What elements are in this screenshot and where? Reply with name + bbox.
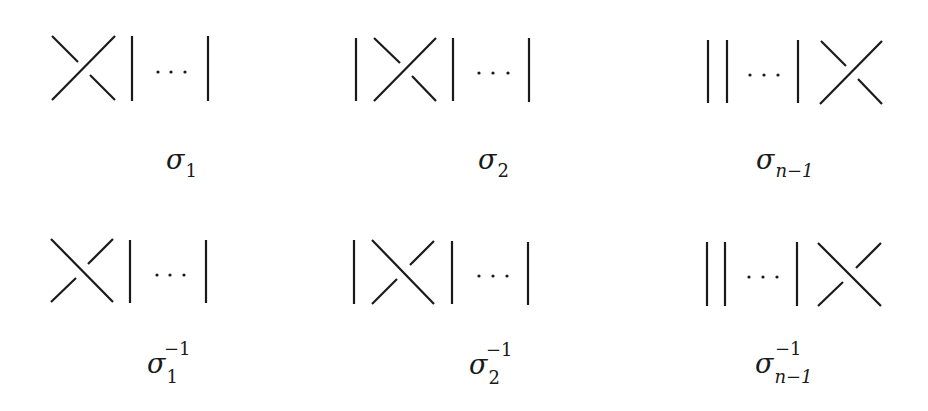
braid-sigma-n-1-inverse: [707, 242, 881, 306]
label-symbol: σ: [756, 144, 774, 175]
label-sigma-2-inverse: σ2−1: [469, 351, 500, 378]
braid-sigma-2: [356, 38, 529, 102]
label-symbol: σ: [166, 144, 184, 175]
label-subscript: 1: [166, 366, 177, 387]
under-strand-lower: [858, 79, 882, 104]
label-subscript: n−1: [775, 160, 813, 181]
braid-sigma-2-inverse: [354, 240, 528, 305]
ellipsis-dots: [747, 275, 778, 278]
label-symbol: σ: [147, 348, 165, 379]
label-subscript: 1: [185, 160, 196, 181]
under-strand-lower: [818, 282, 843, 306]
under-strand-upper: [410, 241, 434, 265]
braid-sigma-1-inverse: [51, 239, 206, 303]
under-strand-lower: [51, 278, 76, 302]
label-sigma-n-1: σn−1: [756, 146, 814, 173]
under-strand-upper: [88, 239, 113, 264]
ellipsis-dots: [477, 71, 509, 74]
label-symbol: σ: [755, 348, 773, 379]
label-sigma-n-1-inverse: σn−1−1: [755, 350, 813, 377]
ellipsis-dots: [477, 274, 508, 277]
label-sigma-2: σ2: [478, 146, 509, 173]
label-sigma-1-inverse: σ1−1: [147, 350, 178, 377]
ellipsis-dots: [156, 70, 186, 73]
ellipsis-dots: [155, 273, 185, 276]
under-strand-lower: [90, 75, 115, 100]
label-symbol: σ: [478, 144, 496, 175]
under-strand-upper: [52, 36, 78, 62]
braid-sigma-n-1: [708, 40, 882, 104]
under-strand-lower: [412, 76, 436, 101]
label-subscript: n−1: [774, 366, 812, 387]
braid-sigma-1: [52, 36, 208, 101]
label-superscript: −1: [164, 340, 191, 358]
label-superscript: −1: [775, 340, 802, 358]
under-strand-upper: [821, 41, 846, 66]
label-subscript: 2: [488, 367, 499, 388]
label-subscript: 2: [497, 160, 508, 181]
under-strand-upper: [856, 243, 881, 268]
under-strand-upper: [374, 38, 400, 63]
label-superscript: −1: [486, 341, 513, 359]
ellipsis-dots: [748, 73, 779, 76]
label-sigma-1: σ1: [166, 146, 197, 173]
under-strand-lower: [372, 279, 397, 304]
label-symbol: σ: [469, 349, 487, 380]
